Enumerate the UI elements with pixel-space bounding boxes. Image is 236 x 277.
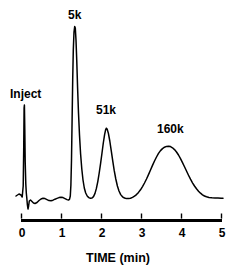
chromatogram-plot	[0, 0, 236, 277]
peak-label-160k: 160k	[157, 123, 184, 135]
chromatogram-figure: Inject 5k 51k 160k 0 1 2 3 4 5 TIME (min…	[0, 0, 236, 277]
x-tick-label-3: 3	[132, 227, 152, 239]
peak-label-5k: 5k	[68, 9, 81, 21]
x-tick-label-5: 5	[212, 227, 232, 239]
x-axis-title: TIME (min)	[0, 252, 236, 265]
x-tick-label-1: 1	[52, 227, 72, 239]
x-axis-ticks	[22, 214, 222, 219]
x-tick-label-4: 4	[172, 227, 192, 239]
trace-line	[16, 27, 223, 210]
x-tick-label-0: 0	[12, 227, 32, 239]
peak-label-inject: Inject	[10, 88, 41, 100]
peak-label-51k: 51k	[96, 104, 116, 116]
x-tick-label-2: 2	[92, 227, 112, 239]
